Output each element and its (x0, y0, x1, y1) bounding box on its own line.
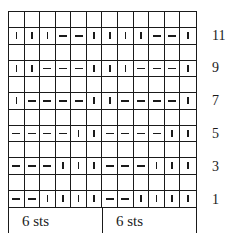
purl-symbol-icon (153, 133, 161, 135)
knit-symbol-icon (109, 97, 111, 104)
knit-symbol-icon (109, 65, 111, 72)
knit-symbol-icon (62, 195, 64, 202)
repeat-bracket-left (8, 208, 9, 233)
chart-cell (118, 77, 134, 93)
chart-cell (40, 158, 56, 174)
knit-symbol-icon (93, 195, 95, 202)
chart-cell (149, 175, 165, 191)
chart-cell (180, 93, 196, 109)
purl-symbol-icon (43, 100, 51, 102)
chart-cell (180, 12, 196, 28)
chart-cell (149, 110, 165, 126)
row-label: 5 (212, 127, 219, 141)
chart-cell (9, 158, 25, 174)
chart-cell (71, 61, 87, 77)
chart-cell (25, 175, 41, 191)
chart-cell (118, 126, 134, 142)
chart-cell (134, 12, 150, 28)
chart-cell (134, 142, 150, 158)
chart-cell (134, 191, 150, 207)
chart-cell (118, 93, 134, 109)
chart-cell (102, 175, 118, 191)
purl-symbol-icon (12, 198, 20, 200)
chart-cell (25, 110, 41, 126)
purl-symbol-icon (43, 68, 51, 70)
purl-symbol-icon (75, 68, 83, 70)
chart-cell (56, 93, 72, 109)
chart-cell (118, 45, 134, 61)
purl-symbol-icon (59, 100, 67, 102)
chart-cell (180, 142, 196, 158)
chart-cell (56, 142, 72, 158)
chart-cell (56, 61, 72, 77)
knit-symbol-icon (16, 65, 18, 72)
chart-cell (56, 28, 72, 44)
chart-cell (165, 175, 181, 191)
chart-cell (56, 77, 72, 93)
chart-cell (87, 61, 103, 77)
chart-cell (165, 45, 181, 61)
knit-symbol-icon (171, 195, 173, 202)
chart-cell (149, 93, 165, 109)
chart-cell (102, 45, 118, 61)
chart-cell (40, 175, 56, 191)
chart-cell (25, 45, 41, 61)
chart-cell (102, 110, 118, 126)
chart-cell (40, 191, 56, 207)
chart-cell (134, 61, 150, 77)
chart-cell (118, 191, 134, 207)
row-label: 9 (212, 61, 219, 75)
chart-cell (25, 93, 41, 109)
chart-cell (118, 158, 134, 174)
knit-symbol-icon (109, 32, 111, 39)
chart-cell (87, 28, 103, 44)
chart-cell (71, 126, 87, 142)
chart-cell (40, 45, 56, 61)
purl-symbol-icon (106, 133, 114, 135)
chart-cell (165, 93, 181, 109)
chart-cell (118, 110, 134, 126)
purl-symbol-icon (59, 133, 67, 135)
knit-symbol-icon (78, 195, 80, 202)
chart-cell (165, 158, 181, 174)
chart-cell (102, 12, 118, 28)
chart-cell (165, 61, 181, 77)
chart-cell (40, 28, 56, 44)
chart-cell (40, 110, 56, 126)
knit-symbol-icon (93, 65, 95, 72)
chart-cell (102, 61, 118, 77)
chart-cell (87, 12, 103, 28)
knit-symbol-icon (187, 65, 189, 72)
chart-cell (149, 12, 165, 28)
chart-cell (87, 142, 103, 158)
knit-symbol-icon (16, 32, 18, 39)
purl-symbol-icon (75, 100, 83, 102)
knit-symbol-icon (187, 97, 189, 104)
chart-cell (149, 191, 165, 207)
purl-symbol-icon (137, 165, 145, 167)
chart-cell (40, 142, 56, 158)
chart-cell (102, 93, 118, 109)
purl-symbol-icon (153, 35, 161, 37)
chart-cell (87, 158, 103, 174)
knit-symbol-icon (93, 162, 95, 169)
repeat-label-left: 6 sts (22, 213, 49, 230)
chart-cell (40, 126, 56, 142)
knit-symbol-icon (140, 195, 142, 202)
knit-symbol-icon (78, 162, 80, 169)
chart-cell (87, 93, 103, 109)
chart-cell (9, 93, 25, 109)
chart-cell (25, 142, 41, 158)
knit-symbol-icon (31, 65, 33, 72)
chart-cell (134, 45, 150, 61)
knit-symbol-icon (187, 130, 189, 137)
chart-cell (71, 175, 87, 191)
purl-symbol-icon (153, 68, 161, 70)
chart-cell (9, 110, 25, 126)
chart-cell (9, 142, 25, 158)
knit-symbol-icon (187, 32, 189, 39)
chart-cell (25, 61, 41, 77)
chart-cell (40, 61, 56, 77)
chart-cell (25, 28, 41, 44)
knit-symbol-icon (171, 130, 173, 137)
